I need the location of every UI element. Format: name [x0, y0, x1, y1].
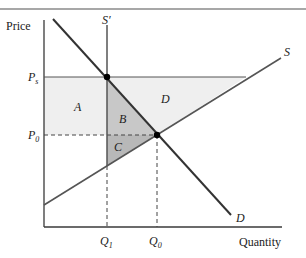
area-a-label: A — [73, 100, 82, 114]
q0-label: Q0 — [149, 234, 162, 250]
supply-label: S — [284, 45, 290, 59]
price-support-diagram: Price Quantity S′ S D Ps P0 Q1 Q0 A B C … — [0, 0, 306, 258]
y-axis-label: Price — [6, 19, 31, 33]
q1-label: Q1 — [100, 234, 113, 250]
support-price-label: Ps — [27, 70, 38, 86]
support-point — [104, 74, 110, 80]
equilibrium-point — [154, 132, 160, 138]
equilibrium-price-label: P0 — [27, 128, 39, 144]
restricted-supply-label: S′ — [102, 13, 111, 27]
x-axis-label: Quantity — [239, 235, 281, 249]
area-d-label: D — [160, 92, 170, 106]
area-b-label: B — [119, 112, 127, 126]
area-c-label: C — [114, 140, 123, 154]
demand-label: D — [235, 211, 245, 225]
